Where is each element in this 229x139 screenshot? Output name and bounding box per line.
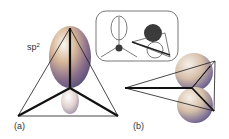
inset-small-dark-lobe: [116, 45, 123, 52]
hybrid-orbital-diagram: [0, 0, 229, 139]
sp2-label-base: sp: [27, 42, 37, 52]
panel-b-label: (b): [133, 121, 144, 131]
sp2-label-superscript: 2: [37, 42, 40, 48]
inset-dark-sphere: [144, 24, 162, 42]
trigonal-edge-3: [214, 61, 215, 111]
panel-b: [125, 53, 215, 123]
panel-a-label: (a): [14, 121, 25, 131]
inset-schematic: [96, 11, 178, 61]
sp2-label: sp2: [27, 42, 40, 52]
